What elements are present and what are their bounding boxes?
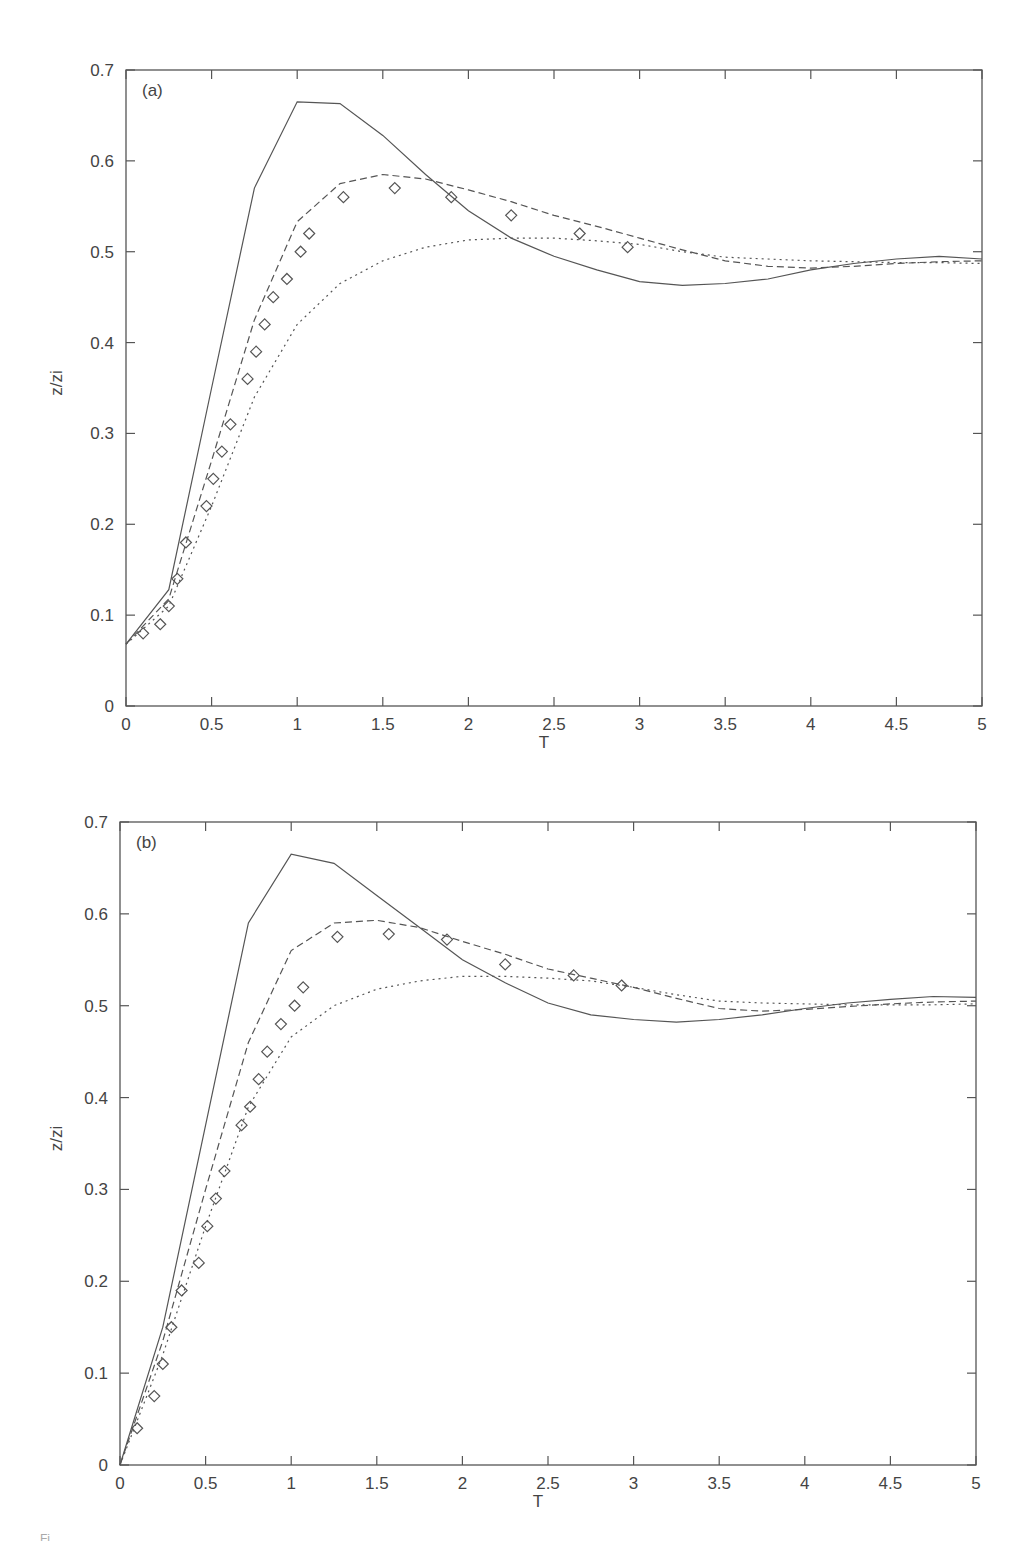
- x-tick-label: 0.5: [194, 1474, 218, 1493]
- diamond-marker: [332, 931, 343, 942]
- y-tick-label: 0.2: [90, 515, 114, 534]
- y-axis-label: z/zi: [47, 370, 66, 396]
- x-tick-label: 4: [806, 715, 815, 734]
- y-tick-label: 0.4: [84, 1089, 108, 1108]
- figure-caption-fragment: Fi: [40, 1532, 70, 1541]
- x-tick-label: 1: [286, 1474, 295, 1493]
- line-chart-b: 00.511.522.533.544.5500.10.20.30.40.50.6…: [0, 770, 1018, 1541]
- diamond-marker: [500, 959, 511, 970]
- diamond-marker: [389, 183, 400, 194]
- x-tick-label: 2.5: [542, 715, 566, 734]
- y-tick-label: 0.3: [90, 424, 114, 443]
- y-tick-label: 0.2: [84, 1272, 108, 1291]
- x-tick-label: 2.5: [536, 1474, 560, 1493]
- diamond-marker: [338, 192, 349, 203]
- diamond-marker: [251, 346, 262, 357]
- diamond-marker: [574, 228, 585, 239]
- y-tick-label: 0.3: [84, 1180, 108, 1199]
- x-tick-label: 3: [629, 1474, 638, 1493]
- plot-frame: [120, 822, 976, 1465]
- diamond-marker: [295, 246, 306, 257]
- diamond-marker: [262, 1046, 273, 1057]
- diamond-marker: [202, 1221, 213, 1232]
- diamond-marker: [193, 1257, 204, 1268]
- x-tick-label: 4: [800, 1474, 809, 1493]
- diamond-marker: [149, 1391, 160, 1402]
- x-tick-label: 2: [458, 1474, 467, 1493]
- x-tick-label: 1.5: [365, 1474, 389, 1493]
- x-tick-label: 0.5: [200, 715, 224, 734]
- diamond-marker: [216, 446, 227, 457]
- y-tick-label: 0.6: [84, 905, 108, 924]
- x-tick-label: 5: [977, 715, 986, 734]
- diamond-marker: [155, 619, 166, 630]
- y-tick-label: 0.5: [84, 997, 108, 1016]
- y-tick-label: 0: [99, 1456, 108, 1475]
- x-tick-label: 3: [635, 715, 644, 734]
- dotted-line: [120, 976, 976, 1465]
- line-chart-a: 00.511.522.533.544.5500.10.20.30.40.50.6…: [0, 0, 1018, 770]
- panel-label: (a): [142, 81, 163, 100]
- diamond-marker: [242, 373, 253, 384]
- y-tick-label: 0.1: [90, 606, 114, 625]
- diamond-marker: [281, 273, 292, 284]
- x-tick-label: 2: [464, 715, 473, 734]
- dotted-line: [126, 238, 982, 644]
- x-tick-label: 0: [121, 715, 130, 734]
- diamond-marker: [225, 419, 236, 430]
- diamond-marker: [219, 1166, 230, 1177]
- solid-line: [126, 102, 982, 644]
- y-tick-label: 0.7: [90, 61, 114, 80]
- y-tick-label: 0.1: [84, 1364, 108, 1383]
- x-tick-label: 3.5: [707, 1474, 731, 1493]
- dashed-line: [126, 175, 982, 645]
- y-axis-label: z/zi: [47, 1126, 66, 1152]
- diamond-marker: [259, 319, 270, 330]
- diamond-marker: [289, 1000, 300, 1011]
- panel-label: (b): [136, 833, 157, 852]
- x-axis-label: T: [539, 733, 549, 752]
- diamond-marker: [298, 982, 309, 993]
- diamond-marker: [208, 473, 219, 484]
- diamond-marker: [568, 970, 579, 981]
- x-tick-label: 1.5: [371, 715, 395, 734]
- x-tick-label: 5: [971, 1474, 980, 1493]
- y-tick-label: 0.7: [84, 813, 108, 832]
- diamond-marker: [138, 628, 149, 639]
- chart-panel-a: 00.511.522.533.544.5500.10.20.30.40.50.6…: [0, 0, 1018, 770]
- plot-frame: [126, 70, 982, 706]
- chart-panel-b: 00.511.522.533.544.5500.10.20.30.40.50.6…: [0, 770, 1018, 1541]
- x-tick-label: 0: [115, 1474, 124, 1493]
- y-tick-label: 0.6: [90, 152, 114, 171]
- x-tick-label: 4.5: [885, 715, 909, 734]
- y-tick-label: 0.5: [90, 243, 114, 262]
- diamond-marker: [268, 292, 279, 303]
- diamond-markers: [138, 183, 633, 639]
- y-tick-label: 0.4: [90, 334, 114, 353]
- dashed-line: [120, 920, 976, 1465]
- y-tick-label: 0: [105, 697, 114, 716]
- solid-line: [120, 854, 976, 1465]
- diamond-marker: [383, 929, 394, 940]
- x-tick-label: 1: [292, 715, 301, 734]
- diamond-marker: [304, 228, 315, 239]
- diamond-marker: [275, 1019, 286, 1030]
- x-tick-label: 3.5: [713, 715, 737, 734]
- x-axis-label: T: [533, 1492, 543, 1511]
- x-tick-label: 4.5: [879, 1474, 903, 1493]
- diamond-marker: [506, 210, 517, 221]
